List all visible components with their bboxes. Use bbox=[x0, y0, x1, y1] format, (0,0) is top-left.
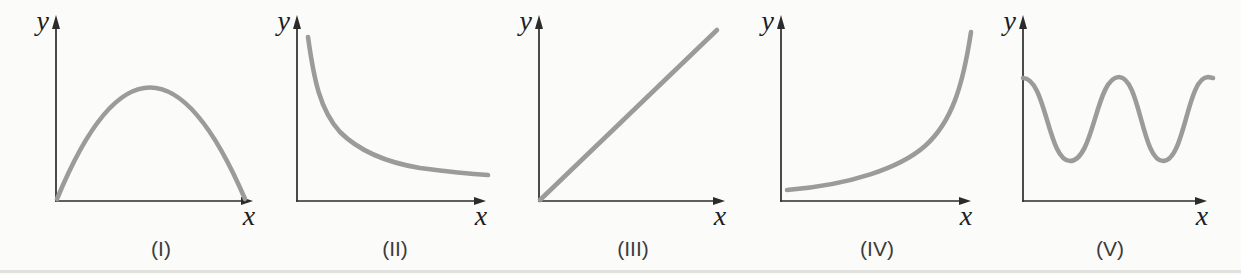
x-axis-label: x bbox=[713, 200, 727, 231]
plot-panel-2: y x (II) bbox=[275, 5, 488, 260]
x-axis-label: x bbox=[959, 200, 973, 231]
y-axis-arrowhead-icon bbox=[1019, 15, 1027, 29]
plot-panel-4: y x (IV) bbox=[759, 5, 973, 260]
plot-panel-1: y x (I) bbox=[34, 5, 256, 260]
plot-panel-3: y x (III) bbox=[517, 5, 727, 260]
y-axis-label: y bbox=[759, 5, 775, 36]
curve-decay bbox=[308, 37, 488, 175]
y-axis-arrowhead-icon bbox=[535, 15, 543, 29]
curve-wave bbox=[1023, 77, 1213, 161]
y-axis-label: y bbox=[1001, 5, 1017, 36]
y-axis-arrowhead-icon bbox=[293, 15, 301, 29]
plot-panel-5: y x (V) bbox=[1001, 5, 1213, 260]
five-curve-sketches-figure: y x (I) y x (II) y x (III) bbox=[0, 0, 1241, 275]
curve-arch bbox=[57, 88, 245, 200]
x-axis-label: x bbox=[474, 200, 488, 231]
panel-label: (III) bbox=[617, 237, 649, 260]
panel-label: (V) bbox=[1096, 237, 1124, 260]
page-bottom-rule bbox=[0, 270, 1241, 273]
y-axis-arrowhead-icon bbox=[777, 15, 785, 29]
panel-label: (I) bbox=[151, 237, 171, 260]
x-axis-label: x bbox=[1195, 200, 1209, 231]
curve-linear bbox=[540, 30, 717, 200]
x-axis-label: x bbox=[242, 200, 256, 231]
y-axis-label: y bbox=[517, 5, 533, 36]
curve-exponential bbox=[787, 32, 971, 190]
five-graphs-svg: y x (I) y x (II) y x (III) bbox=[0, 0, 1241, 275]
panel-label: (IV) bbox=[860, 237, 894, 260]
y-axis-label: y bbox=[34, 5, 50, 36]
panel-label: (II) bbox=[382, 237, 408, 260]
y-axis-arrowhead-icon bbox=[52, 15, 60, 29]
y-axis-label: y bbox=[275, 5, 291, 36]
